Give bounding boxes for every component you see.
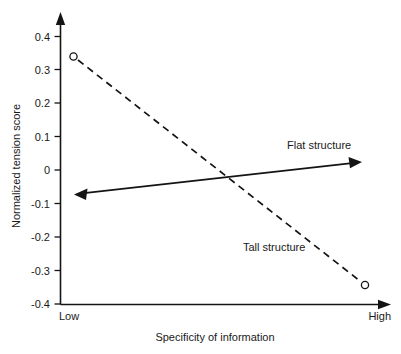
y-axis-title: Normalized tension score (10, 104, 22, 228)
annotation-tall-structure: Tall structure (243, 241, 305, 253)
tall-structure-line (78, 60, 360, 281)
flat-structure-line (84, 163, 352, 193)
flat-structure-right-arrowhead-icon (349, 157, 363, 168)
y-tick-label-neg0p1: -0.1 (31, 198, 50, 210)
series-flat-structure (74, 157, 362, 200)
x-tick-label-high: High (368, 310, 391, 322)
chart-plot-area: 0.4 0.3 0.2 0.1 0 -0.1 -0.2 -0.3 -0.4 Lo… (0, 0, 401, 354)
axis-group (56, 12, 391, 309)
y-tick-labels: 0.4 0.3 0.2 0.1 0 -0.1 -0.2 -0.3 -0.4 (31, 31, 50, 311)
x-axis-arrowhead-icon (378, 300, 391, 309)
chart-figure: 0.4 0.3 0.2 0.1 0 -0.1 -0.2 -0.3 -0.4 Lo… (0, 0, 401, 354)
x-axis-title: Specificity of information (155, 331, 274, 343)
y-tick-label-0p4: 0.4 (35, 31, 50, 43)
x-tick-label-low: Low (59, 310, 79, 322)
y-tick-label-0p1: 0.1 (35, 131, 50, 143)
annotation-flat-structure: Flat structure (287, 139, 351, 151)
y-tick-label-neg0p3: -0.3 (31, 265, 50, 277)
tall-structure-marker-high (361, 281, 368, 288)
y-tick-marks (55, 37, 61, 305)
y-tick-label-0p3: 0.3 (35, 64, 50, 76)
y-tick-label-neg0p4: -0.4 (31, 298, 50, 310)
y-tick-label-neg0p2: -0.2 (31, 231, 50, 243)
y-tick-label-0: 0 (44, 164, 50, 176)
series-annotations: Flat structure Tall structure (243, 139, 351, 253)
y-axis-arrowhead-icon (56, 12, 65, 25)
y-tick-label-0p2: 0.2 (35, 97, 50, 109)
x-tick-labels: Low High (59, 310, 391, 322)
flat-structure-left-arrowhead-icon (74, 189, 88, 200)
series-tall-structure (70, 53, 369, 289)
tall-structure-marker-low (70, 53, 77, 60)
